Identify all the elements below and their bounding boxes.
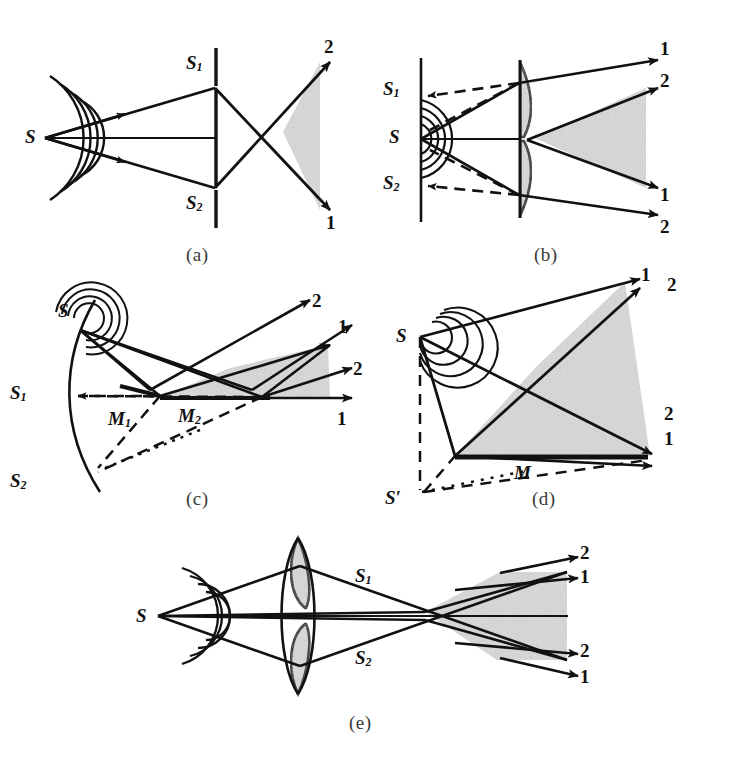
panel-c-beam-1-right-label: 1 [337,408,347,430]
panel-b-beam-2b-label: 2 [660,216,670,238]
panel-c-caption: (c) [186,488,209,510]
panel-b-beam-1b-label: 1 [660,184,670,206]
panel-e [158,538,578,694]
panel-a-source-label: S [25,126,36,148]
panel-c-beam-2-top-label: 2 [312,290,322,312]
panel-c [56,282,352,492]
panel-b-virtual-source-2-label: S2 [383,172,400,195]
panel-c-mirror-1-label: M1 [108,408,131,431]
panel-d-beam-1-top-label: 1 [641,264,651,286]
panel-a-slit1-label: S1 [186,52,203,75]
panel-c-mirror-2-label: M2 [178,405,201,428]
panel-d-beam-2-top-label: 2 [667,274,677,296]
panel-b-beam-1a-label: 1 [660,38,670,60]
panel-b-beam-2a-label: 2 [660,70,670,92]
panel-e-source-label: S [136,605,147,627]
panel-a-slit2-label: S2 [186,192,203,215]
panel-c-beam-1-top-label: 1 [338,316,348,338]
panel-e-beam-2-top-label: 2 [580,542,590,564]
panel-d [420,279,652,492]
panel-c-image-1-label: S1 [10,382,27,405]
panel-b-caption: (b) [534,244,558,266]
panel-d-caption: (d) [532,488,556,510]
panel-e-beam-1-bottom-label: 1 [580,666,590,688]
panel-d-beam-1-right-label: 1 [664,428,674,450]
panel-d-beam-2-right-label: 2 [664,403,674,425]
panel-a-beam-1-label: 1 [326,212,336,234]
panel-e-beam-1-top-label: 1 [580,566,590,588]
panel-a-caption: (a) [186,244,209,266]
panel-b [421,58,658,222]
panel-b-rays [421,83,521,195]
panel-c-virtual-lines [78,396,262,472]
panel-a-overlap-shading [283,62,320,210]
panel-d-source-label: S [396,325,407,347]
panel-d-image-source-label: S′ [385,487,401,509]
panel-c-source-label: S [58,300,69,322]
panel-e-image-1-label: S1 [355,565,372,588]
panel-b-virtual-source-1-label: S1 [383,78,400,101]
panel-c-virtual-dotted [100,430,200,470]
panel-a-beam-2-label: 2 [324,36,334,58]
panel-a-rays [45,88,216,188]
optics-figure [0,0,732,757]
panel-b-overlap-shading [535,88,646,188]
panel-e-beam-2-bottom-label: 2 [580,640,590,662]
panel-c-beam-2-right-label: 2 [353,358,363,380]
panel-e-image-2-label: S2 [355,647,372,670]
panel-e-caption: (e) [349,712,372,734]
panel-d-mirror-label: M [514,462,531,484]
panel-c-image-2-label: S2 [10,470,27,493]
panel-b-source-label: S [389,126,400,148]
